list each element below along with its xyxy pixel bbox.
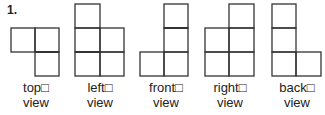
back-view-figure (272, 4, 321, 76)
top-view-label: top□ view (6, 80, 66, 110)
front-view-figure (140, 4, 188, 76)
right-view-figure (205, 4, 254, 76)
top-view-figure (11, 28, 59, 76)
left-view-label: left□ view (70, 80, 130, 110)
left-view-figure (75, 4, 124, 76)
back-view-label: back□ view (267, 80, 325, 110)
right-view-label: right□ view (200, 80, 260, 110)
front-view-label: front□ view (136, 80, 196, 110)
